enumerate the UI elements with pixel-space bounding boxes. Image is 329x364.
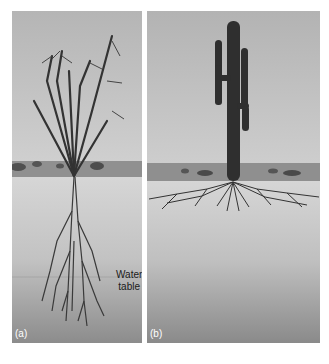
- panel-b-saguaro: (b): [147, 11, 320, 343]
- panel-b-label: (b): [150, 328, 162, 339]
- panel-a-label: (a): [15, 328, 27, 339]
- soil: [147, 181, 320, 343]
- panel-a-ocotillo: Water table (a): [12, 11, 142, 343]
- water-table-label: Water table: [116, 269, 142, 293]
- ocotillo-illustration: [12, 11, 142, 343]
- saguaro-illustration: [147, 11, 320, 343]
